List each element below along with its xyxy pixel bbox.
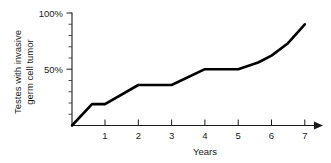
chart-figure: 100% 50% 1 2 3 4 5 6 7 Years Testes with…: [0, 0, 331, 163]
x-tick-label-7: 7: [302, 130, 307, 141]
x-tick-label-3: 3: [169, 130, 174, 141]
y-axis-title-line1: Testes with invasive: [12, 30, 23, 114]
x-tick-label-4: 4: [202, 130, 207, 141]
x-tick-label-6: 6: [269, 130, 274, 141]
y-tick-label-100: 100%: [39, 8, 64, 19]
y-axis-title-line2: germ cell tumor: [24, 39, 35, 104]
x-axis-arrow-icon: [314, 122, 323, 130]
x-tick-label-1: 1: [102, 130, 107, 141]
x-tick-label-5: 5: [236, 130, 241, 141]
series-line-cumulative-incidence: [72, 24, 305, 125]
y-tick-label-50: 50%: [44, 64, 64, 75]
x-tick-label-2: 2: [136, 130, 141, 141]
x-axis-title: Years: [193, 146, 217, 157]
line-chart-canvas: 100% 50% 1 2 3 4 5 6 7 Years Testes with…: [0, 0, 331, 163]
